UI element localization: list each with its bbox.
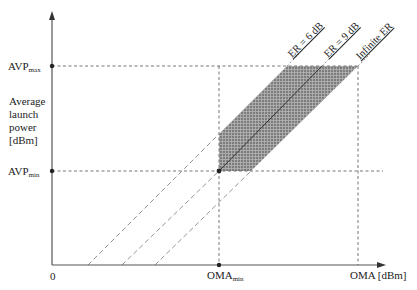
er-6db-label: ER = 6 dB xyxy=(286,20,325,59)
svg-text:[dBm]: [dBm] xyxy=(9,134,38,146)
avp-min-label: AVPmin xyxy=(8,165,40,179)
corner-point xyxy=(217,169,222,174)
svg-text:Average: Average xyxy=(9,95,46,107)
y-axis-title: Average launch power [dBm] xyxy=(9,95,46,146)
x-axis-arrow-icon xyxy=(377,262,386,268)
oma-min-point xyxy=(217,263,221,267)
avp-max-point xyxy=(50,64,54,68)
origin-label: 0 xyxy=(50,270,56,282)
compliance-region xyxy=(219,66,358,171)
svg-text:launch: launch xyxy=(9,108,39,120)
guide-lines xyxy=(52,66,383,265)
x-axis-title: OMA [dBm] xyxy=(350,269,407,281)
avp-min-point xyxy=(50,169,54,173)
avp-max-label: AVPmax xyxy=(8,60,41,74)
er-9db-line xyxy=(219,66,322,171)
svg-text:power: power xyxy=(9,121,37,133)
y-axis-arrow-icon xyxy=(49,11,55,20)
oma-min-label: OMAmin xyxy=(207,269,244,283)
launch-power-diagram: AVPmax AVPmin Average launch power [dBm]… xyxy=(0,0,417,290)
